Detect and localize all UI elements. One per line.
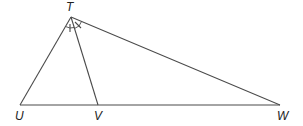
segment-tv bbox=[71, 17, 98, 105]
label-v: V bbox=[94, 109, 103, 123]
segment-tw bbox=[71, 17, 280, 105]
label-u: U bbox=[15, 109, 24, 123]
segment-tu bbox=[20, 17, 71, 105]
triangle-diagram: T U V W bbox=[0, 0, 303, 126]
label-w: W bbox=[277, 109, 290, 123]
label-t: T bbox=[66, 0, 75, 14]
